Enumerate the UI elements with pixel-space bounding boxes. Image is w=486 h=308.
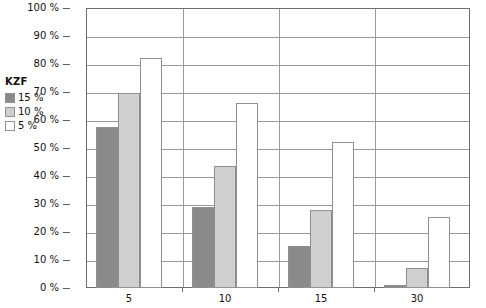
x-tick-label: 10 <box>219 293 232 305</box>
y-tick-mark <box>63 204 70 205</box>
bar <box>406 268 428 288</box>
x-tick-label: 5 <box>126 293 132 305</box>
bar <box>236 103 258 288</box>
y-tick-mark <box>63 148 70 149</box>
y-tick-label: 0 % <box>40 283 59 293</box>
x-tick-mark <box>374 288 375 292</box>
y-tick-mark <box>63 232 70 233</box>
y-tick-mark <box>63 176 70 177</box>
y-tick-mark <box>63 36 70 37</box>
y-tick-mark <box>63 64 70 65</box>
bar <box>332 142 354 288</box>
y-tick-mark <box>63 120 70 121</box>
x-tick-mark <box>278 288 279 292</box>
bars-layer <box>86 8 470 288</box>
y-tick-mark <box>63 8 70 9</box>
y-tick-label: 40 % <box>34 171 59 181</box>
y-tick-label: 20 % <box>34 227 59 237</box>
y-tick-label: 90 % <box>34 31 59 41</box>
y-tick-label: 60 % <box>34 115 59 125</box>
bar <box>214 166 236 288</box>
bar <box>96 127 118 288</box>
x-tick-mark <box>182 288 183 292</box>
bar-chart: KZF 15 % 10 % 5 % 0 %10 %20 %30 %40 %50 … <box>0 0 486 308</box>
bar <box>140 58 162 288</box>
y-tick-label: 30 % <box>34 199 59 209</box>
y-tick-label: 10 % <box>34 255 59 265</box>
y-tick-label: 50 % <box>34 143 59 153</box>
x-axis: 5101530 <box>86 288 470 308</box>
y-tick-label: 80 % <box>34 59 59 69</box>
y-axis: 0 %10 %20 %30 %40 %50 %60 %70 %80 %90 %1… <box>0 0 86 296</box>
bar <box>428 217 450 288</box>
bar <box>310 210 332 288</box>
bar <box>118 93 140 288</box>
x-tick-label: 30 <box>411 293 424 305</box>
y-tick-label: 100 % <box>27 3 59 13</box>
y-tick-label: 70 % <box>34 87 59 97</box>
x-tick-label: 15 <box>315 293 328 305</box>
bar <box>192 207 214 288</box>
y-tick-mark <box>63 288 70 289</box>
y-tick-mark <box>63 92 70 93</box>
bar <box>288 246 310 288</box>
y-tick-mark <box>63 260 70 261</box>
